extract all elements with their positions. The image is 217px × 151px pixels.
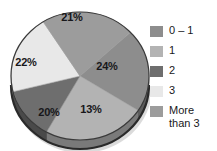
legend-swatch-icon [150, 86, 163, 97]
slice-label-2: 13% [77, 104, 105, 115]
legend-swatch-icon [150, 46, 163, 57]
legend-item: 1 [150, 44, 217, 61]
pie-chart: 21% 24% 13% 20% 22% [0, 0, 150, 151]
legend-item-label: More than 3 [169, 104, 200, 130]
legend-swatch-icon [150, 66, 163, 77]
slice-label-3: 20% [35, 107, 63, 118]
legend-item: 0 – 1 [150, 24, 217, 41]
legend-swatch-icon [150, 26, 163, 37]
legend-item: 3 [150, 84, 217, 101]
slice-label-4: 22% [12, 57, 40, 68]
slice-label-0: 21% [58, 12, 86, 23]
slice-label-1: 24% [93, 61, 121, 72]
chart-canvas: 21% 24% 13% 20% 22% 0 – 1 1 2 3 More tha… [0, 0, 217, 151]
chart-legend: 0 – 1 1 2 3 More than 3 [150, 24, 217, 132]
legend-swatch-icon [150, 106, 163, 117]
legend-item: 2 [150, 64, 217, 81]
legend-item-label: 3 [169, 84, 175, 97]
legend-item-label: 0 – 1 [169, 24, 193, 37]
legend-item-label: 1 [169, 44, 175, 57]
legend-item-label: 2 [169, 64, 175, 77]
legend-item: More than 3 [150, 104, 217, 132]
